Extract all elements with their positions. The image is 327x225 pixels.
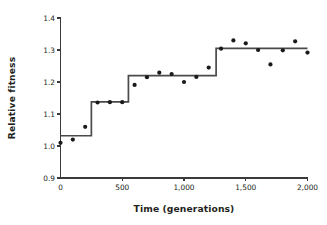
data-point <box>120 100 124 104</box>
y-axis-tick-label: 1.1 <box>43 110 55 119</box>
data-point <box>108 100 112 104</box>
data-point <box>71 138 75 142</box>
y-axis-title: Relative fitness <box>6 56 17 139</box>
y-axis-tick-label: 1.4 <box>43 14 55 23</box>
data-point <box>83 125 87 129</box>
data-point <box>182 80 186 84</box>
data-point <box>194 75 198 79</box>
data-point <box>305 50 309 54</box>
data-point <box>58 141 62 145</box>
data-point <box>133 83 137 87</box>
x-axis-title: Time (generations) <box>134 203 235 214</box>
x-axis-tick-label: 1,000 <box>173 183 194 192</box>
data-point <box>170 72 174 76</box>
y-axis-tick-label: 1.2 <box>43 78 55 87</box>
y-axis-tick-label: 1.0 <box>43 142 55 151</box>
data-points-series <box>58 38 309 145</box>
data-point <box>256 48 260 52</box>
figure-container: 0.91.01.11.21.31.4 05001,0001,5002,000 T… <box>0 0 327 225</box>
axes-group <box>57 18 307 181</box>
x-axis-tick-label: 0 <box>58 183 63 192</box>
step-function-line <box>61 48 308 135</box>
data-point <box>207 66 211 70</box>
data-point <box>244 41 248 45</box>
data-point <box>293 39 297 43</box>
step-function-series <box>61 48 308 135</box>
data-point <box>281 48 285 52</box>
fitness-step-chart: 0.91.01.11.21.31.4 05001,0001,5002,000 T… <box>0 0 327 225</box>
x-axis-tick-label: 500 <box>115 183 129 192</box>
data-point <box>268 62 272 66</box>
data-point <box>219 47 223 51</box>
x-axis-tick-label: 2,000 <box>297 183 318 192</box>
data-point <box>145 75 149 79</box>
data-point <box>95 100 99 104</box>
x-axis-tick-label: 1,500 <box>235 183 256 192</box>
data-point <box>157 71 161 75</box>
y-axis-tick-labels: 0.91.01.11.21.31.4 <box>43 14 55 183</box>
data-point <box>231 38 235 42</box>
y-axis-tick-label: 0.9 <box>43 174 55 183</box>
y-axis-tick-label: 1.3 <box>43 46 55 55</box>
x-axis-tick-labels: 05001,0001,5002,000 <box>58 183 318 192</box>
